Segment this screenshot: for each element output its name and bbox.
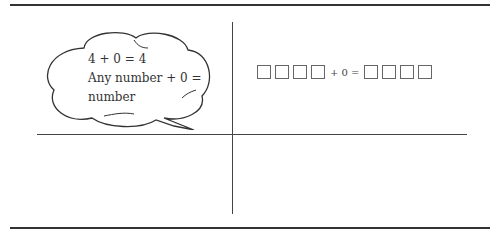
answer-box[interactable] (311, 65, 325, 79)
bottom-rule (10, 227, 490, 229)
top-rule (10, 4, 490, 6)
answer-box[interactable] (400, 65, 414, 79)
answer-box[interactable] (382, 65, 396, 79)
cloud-line-1: 4 + 0 = 4 (88, 50, 202, 69)
equation-row: + 0 = (257, 64, 432, 80)
equation-operator: + 0 = (330, 67, 359, 78)
horizontal-divider (37, 134, 467, 135)
answer-box[interactable] (418, 65, 432, 79)
cloud-line-2: Any number + 0 = (88, 69, 202, 88)
cloud-text: 4 + 0 = 4 Any number + 0 = number (88, 50, 202, 107)
answer-box[interactable] (257, 65, 271, 79)
cloud-line-3: number (88, 88, 202, 107)
vertical-divider (232, 22, 233, 214)
answer-box[interactable] (364, 65, 378, 79)
answer-box[interactable] (293, 65, 307, 79)
answer-box[interactable] (275, 65, 289, 79)
